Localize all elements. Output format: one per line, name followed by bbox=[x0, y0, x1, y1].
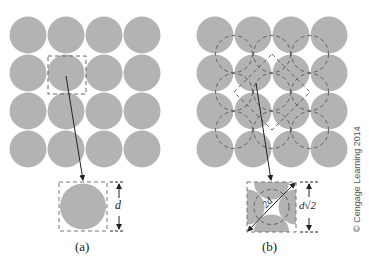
panel-b-interstitial-circles bbox=[216, 36, 329, 149]
panel-b-dimension-label: d√2 bbox=[299, 199, 316, 211]
panel-a-grid bbox=[10, 17, 161, 168]
diagram-canvas bbox=[0, 0, 369, 266]
panel-a-dimension-label: d bbox=[115, 198, 121, 213]
panel-b-grid bbox=[197, 17, 348, 168]
panel-a-zoom-disc bbox=[60, 184, 106, 230]
panel-a-caption: (a) bbox=[75, 239, 89, 255]
copyright-credit: © Cengage Learning 2014 bbox=[352, 126, 362, 232]
panel-b-caption: (b) bbox=[262, 239, 277, 255]
